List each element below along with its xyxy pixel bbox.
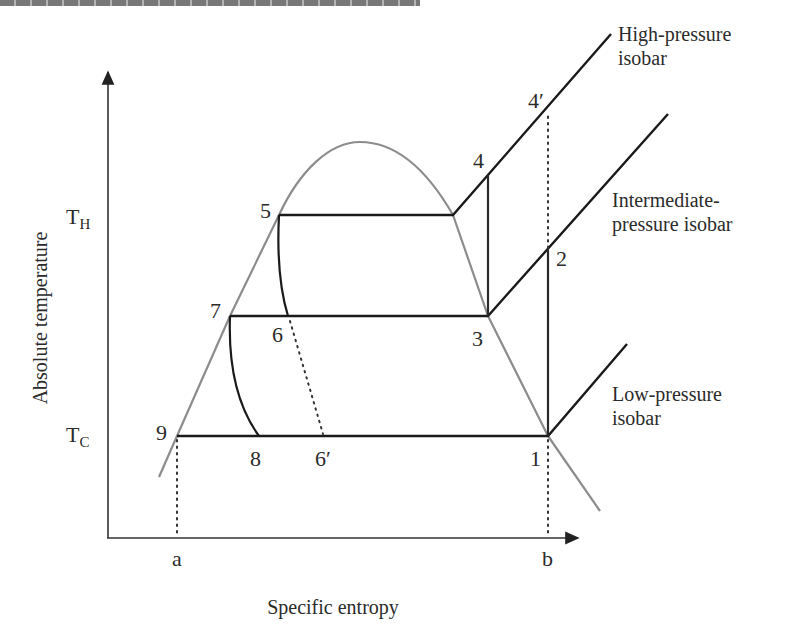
tc-main: T: [66, 422, 79, 447]
point-1-label: 1: [530, 448, 541, 470]
point-7-label: 7: [210, 300, 221, 322]
point-3-label: 3: [472, 328, 483, 350]
point-4prime-label: 4′: [528, 90, 544, 112]
high-pressure-isobar-label: High-pressure isobar: [618, 22, 731, 70]
x-axis-label: Specific entropy: [267, 596, 399, 619]
tc-tick-label: TC: [66, 424, 89, 446]
th-sub: H: [79, 216, 90, 232]
intermediate-pressure-line1: Intermediate-: [612, 188, 733, 212]
throttle-7-8: [230, 316, 259, 436]
tc-sub: C: [79, 434, 89, 450]
low-pressure-isobar-label: Low-pressure isobar: [612, 382, 722, 430]
high-pressure-isobar: [279, 34, 611, 215]
th-main: T: [66, 204, 79, 229]
intermediate-pressure-isobar-label: Intermediate- pressure isobar: [612, 188, 733, 236]
high-pressure-line1: High-pressure: [618, 22, 731, 46]
y-axis-label: Absolute temperature: [29, 232, 52, 405]
throttle-5-6prime-dotted: [290, 321, 323, 434]
th-tick-label: TH: [66, 206, 90, 228]
point-5-label: 5: [260, 200, 271, 222]
intermediate-pressure-line2: pressure isobar: [612, 212, 733, 236]
low-pressure-line2: isobar: [612, 406, 722, 430]
point-6-label: 6: [272, 324, 283, 346]
point-4-label: 4: [473, 150, 484, 172]
low-pressure-line1: Low-pressure: [612, 382, 722, 406]
point-2-label: 2: [556, 248, 567, 270]
high-pressure-line2: isobar: [618, 46, 731, 70]
x-tick-a: a: [172, 548, 182, 570]
point-9-label: 9: [156, 422, 167, 444]
ts-diagram: [0, 0, 795, 642]
point-6prime-label: 6′: [315, 448, 331, 470]
low-pressure-isobar: [177, 344, 627, 436]
point-8-label: 8: [250, 448, 261, 470]
x-tick-b: b: [542, 548, 553, 570]
throttle-5-6: [278, 215, 288, 316]
